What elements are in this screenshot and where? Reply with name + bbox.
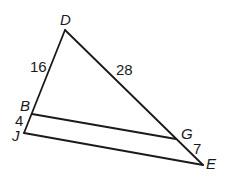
side-dj xyxy=(24,30,65,133)
measure-bj: 4 xyxy=(15,113,23,128)
measure-ge: 7 xyxy=(193,141,201,156)
vertex-label-j: J xyxy=(12,128,20,143)
vertex-label-e: E xyxy=(206,156,216,171)
measure-dg: 28 xyxy=(116,62,133,77)
vertex-label-g: G xyxy=(181,126,193,141)
vertex-label-b: B xyxy=(20,98,30,113)
measure-db: 16 xyxy=(30,59,47,74)
vertex-label-d: D xyxy=(60,12,71,27)
triangle-diagram xyxy=(0,0,225,177)
